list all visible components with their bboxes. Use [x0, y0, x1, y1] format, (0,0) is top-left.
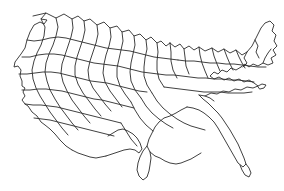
state-boundary-30: [255, 40, 259, 58]
us-distorted-map-figure: [0, 0, 284, 191]
state-boundary-31: [263, 49, 271, 63]
state-boundary-11: [27, 37, 178, 60]
state-boundary-29: [121, 123, 137, 146]
map-canvas: Distorted outline map of the contiguous …: [0, 0, 284, 191]
state-boundary-1: [32, 19, 68, 135]
feature-barrier-island: [205, 96, 214, 101]
state-boundary-3: [61, 19, 90, 123]
state-boundary-7: [117, 32, 131, 102]
feature-texas-mexico-border: [137, 146, 151, 180]
feature-cape-detail: [258, 84, 266, 89]
state-boundary-12: [22, 54, 158, 74]
state-boundary-10: [157, 43, 164, 87]
feature-great-lakes-edge: [170, 43, 247, 55]
feature-maine-newengland: [241, 21, 277, 67]
feature-california-coast: [72, 150, 106, 158]
feature-northern-border: [46, 13, 170, 46]
state-boundary-16: [34, 118, 114, 136]
state-boundary-24: [158, 74, 254, 82]
state-boundary-28: [131, 102, 153, 131]
state-boundary-18: [184, 49, 189, 74]
state-boundary-9: [144, 40, 152, 93]
state-boundary-6: [103, 28, 122, 107]
feature-southwest-border: [106, 129, 142, 156]
state-boundary-17: [170, 43, 177, 78]
state-boundary-25: [178, 60, 266, 67]
